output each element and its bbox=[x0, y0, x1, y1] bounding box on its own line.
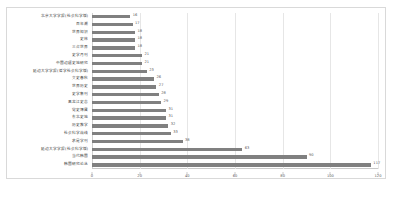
bar[interactable] bbox=[92, 132, 171, 135]
bar[interactable] bbox=[92, 124, 168, 127]
bar-chart-panel: 北京大学学报(社会科学版)百年潮世界知识史林三合世界史学月刊中国边疆史地研究延边… bbox=[0, 0, 407, 198]
category-label: 三合世界 bbox=[72, 46, 88, 50]
category-label: 求是学刊 bbox=[72, 140, 88, 144]
bar-row[interactable]: 27 bbox=[92, 83, 378, 91]
bar-row[interactable]: 31 bbox=[92, 107, 378, 115]
bar-value-label: 31 bbox=[168, 108, 173, 112]
category-label: 当代韩国 bbox=[72, 155, 88, 159]
bar-value-label: 18 bbox=[137, 45, 142, 49]
bar[interactable] bbox=[92, 77, 154, 80]
bar-value-label: 63 bbox=[245, 147, 250, 151]
bar-row[interactable]: 29 bbox=[92, 99, 378, 107]
bar-value-label: 21 bbox=[145, 61, 150, 65]
bar-value-label: 29 bbox=[164, 100, 169, 104]
bar-row[interactable]: 33 bbox=[92, 130, 378, 138]
category-label: 韩国研究论丛 bbox=[64, 163, 88, 167]
bar-row[interactable]: 32 bbox=[92, 122, 378, 130]
bar[interactable] bbox=[92, 23, 133, 26]
x-tick-label: 20 bbox=[137, 175, 142, 179]
category-label: 党史博属 bbox=[72, 109, 88, 113]
plot-area: 1617181818212123262728293131323338639011… bbox=[92, 13, 378, 169]
category-label: 延边大学学报(哲学社会科学版) bbox=[33, 70, 88, 74]
bar-value-label: 117 bbox=[373, 162, 380, 166]
bar-value-label: 18 bbox=[137, 30, 142, 34]
bar-row[interactable]: 18 bbox=[92, 36, 378, 44]
bar-value-label: 27 bbox=[159, 84, 164, 88]
bar-value-label: 26 bbox=[156, 76, 161, 80]
bar-row[interactable]: 38 bbox=[92, 138, 378, 146]
bar[interactable] bbox=[92, 101, 161, 104]
x-tick-label: 0 bbox=[91, 175, 93, 179]
bar[interactable] bbox=[92, 93, 159, 96]
bar[interactable] bbox=[92, 38, 135, 41]
bar[interactable] bbox=[92, 62, 142, 65]
bar-value-label: 31 bbox=[168, 115, 173, 119]
bar-value-label: 38 bbox=[185, 139, 190, 143]
bar-value-label: 28 bbox=[161, 92, 166, 96]
x-tick-label: 40 bbox=[185, 175, 190, 179]
bar-value-label: 90 bbox=[309, 154, 314, 158]
category-label: 百年潮 bbox=[76, 23, 88, 27]
x-tick-label: 100 bbox=[327, 175, 334, 179]
bar[interactable] bbox=[92, 155, 307, 158]
gridline bbox=[378, 13, 379, 169]
category-label: 史学月刊 bbox=[72, 54, 88, 58]
bar[interactable] bbox=[92, 15, 130, 18]
category-label: 延边大学学报(社会科学版) bbox=[41, 148, 88, 152]
bar-row[interactable]: 21 bbox=[92, 60, 378, 68]
bar[interactable] bbox=[92, 163, 371, 166]
bar-value-label: 23 bbox=[149, 69, 154, 73]
bar-value-label: 17 bbox=[135, 22, 140, 26]
bar-row[interactable]: 31 bbox=[92, 114, 378, 122]
bar-value-label: 33 bbox=[173, 131, 178, 135]
bar-row[interactable]: 26 bbox=[92, 75, 378, 83]
bar[interactable] bbox=[92, 31, 135, 34]
category-label: 社会科学战线 bbox=[64, 132, 88, 136]
category-label: 史学集刊 bbox=[72, 93, 88, 97]
category-axis-labels: 北京大学学报(社会科学版)百年潮世界知识史林三合世界史学月刊中国边疆史地研究延边… bbox=[6, 13, 90, 169]
category-label: 历史教学 bbox=[72, 124, 88, 128]
bar-row[interactable]: 18 bbox=[92, 29, 378, 37]
bar[interactable] bbox=[92, 109, 166, 112]
bar-row[interactable]: 18 bbox=[92, 44, 378, 52]
category-label: 史林 bbox=[80, 38, 88, 42]
x-tick-label: 80 bbox=[280, 175, 285, 179]
bar[interactable] bbox=[92, 46, 135, 49]
bar[interactable] bbox=[92, 70, 147, 73]
bar[interactable] bbox=[92, 116, 166, 119]
category-label: 中国边疆史地研究 bbox=[56, 62, 88, 66]
bar[interactable] bbox=[92, 54, 142, 57]
bar-row[interactable]: 63 bbox=[92, 146, 378, 154]
chart-plot-wrapper: 北京大学学报(社会科学版)百年潮世界知识史林三合世界史学月刊中国边疆史地研究延边… bbox=[6, 7, 386, 179]
category-label: 世界知识 bbox=[72, 31, 88, 35]
bar-row[interactable]: 16 bbox=[92, 13, 378, 21]
category-label: 北京大学学报(社会科学版) bbox=[41, 15, 88, 19]
bar-value-label: 16 bbox=[133, 14, 138, 18]
bar-value-label: 18 bbox=[137, 37, 142, 41]
bar[interactable] bbox=[92, 85, 156, 88]
bar-row[interactable]: 28 bbox=[92, 91, 378, 99]
bar-value-label: 21 bbox=[145, 53, 150, 57]
bar[interactable] bbox=[92, 148, 242, 151]
x-axis-tick-labels: 020406080100120 bbox=[92, 175, 378, 184]
bar-row[interactable]: 117 bbox=[92, 161, 378, 169]
category-label: 世界历史 bbox=[72, 85, 88, 89]
bar-row[interactable]: 21 bbox=[92, 52, 378, 60]
bar-row[interactable]: 23 bbox=[92, 68, 378, 76]
bar-row[interactable]: 90 bbox=[92, 153, 378, 161]
category-label: 黑龙江史志 bbox=[68, 101, 88, 105]
bar-value-label: 32 bbox=[171, 123, 176, 127]
x-tick-label: 120 bbox=[375, 175, 382, 179]
category-label: 文史春秋 bbox=[72, 77, 88, 81]
bar-row[interactable]: 17 bbox=[92, 21, 378, 29]
x-tick-label: 60 bbox=[233, 175, 238, 179]
bar[interactable] bbox=[92, 140, 183, 143]
category-label: 东北史地 bbox=[72, 116, 88, 120]
